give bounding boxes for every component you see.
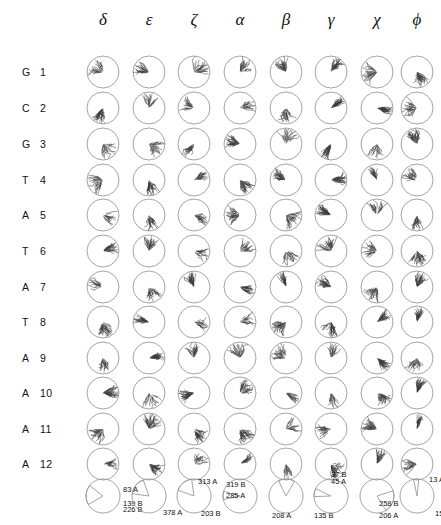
dial-plot-phi-residue-8[interactable]	[399, 304, 435, 340]
dial-plot-chi-residue-9[interactable]	[359, 340, 395, 376]
dial-plot-chi-residue-7[interactable]	[359, 269, 395, 305]
dial-plot-chi-residue-8[interactable]	[359, 304, 395, 340]
row-residue-number: 6	[40, 245, 60, 257]
pie-slice-label: 154 B	[435, 510, 441, 518]
dial-plot-beta-residue-6[interactable]	[268, 233, 304, 269]
dial-plot-gamma-residue-4[interactable]	[313, 162, 349, 198]
dial-plot-chi-residue-3[interactable]	[359, 126, 395, 162]
dial-plot-alpha-residue-9[interactable]	[222, 340, 258, 376]
dial-plot-delta-residue-11[interactable]	[85, 411, 121, 447]
dial-plot-zeta-residue-4[interactable]	[176, 162, 212, 198]
dial-plot-beta-residue-4[interactable]	[268, 162, 304, 198]
dial-plot-beta-residue-1[interactable]	[268, 54, 304, 90]
dial-plot-alpha-residue-2[interactable]	[222, 90, 258, 126]
dial-plot-beta-residue-7[interactable]	[268, 269, 304, 305]
dial-plot-delta-residue-10[interactable]	[85, 375, 121, 411]
dial-plot-alpha-residue-8[interactable]	[222, 304, 258, 340]
dial-plot-phi-residue-1[interactable]	[399, 54, 435, 90]
dial-plot-beta-residue-9[interactable]	[268, 340, 304, 376]
dial-plot-beta-residue-2[interactable]	[268, 90, 304, 126]
dial-plot-gamma-residue-1[interactable]	[313, 54, 349, 90]
dial-plot-chi-residue-11[interactable]	[359, 411, 395, 447]
dial-plot-epsilon-residue-4[interactable]	[131, 162, 167, 198]
dial-plot-epsilon-residue-8[interactable]	[131, 304, 167, 340]
dial-plot-gamma-residue-9[interactable]	[313, 340, 349, 376]
dial-plot-beta-residue-5[interactable]	[268, 197, 304, 233]
dial-plot-zeta-residue-10[interactable]	[176, 375, 212, 411]
dial-plot-epsilon-residue-11[interactable]	[131, 411, 167, 447]
row-residue-number: 5	[40, 209, 60, 221]
dial-plot-delta-residue-2[interactable]	[85, 90, 121, 126]
dial-plot-gamma-residue-5[interactable]	[313, 197, 349, 233]
summary-pie-delta[interactable]	[84, 477, 122, 515]
dial-plot-alpha-residue-10[interactable]	[222, 375, 258, 411]
dial-plot-zeta-residue-2[interactable]	[176, 90, 212, 126]
row-residue-number: 12	[40, 458, 60, 470]
dial-plot-chi-residue-5[interactable]	[359, 197, 395, 233]
dial-plot-gamma-residue-11[interactable]	[313, 411, 349, 447]
dial-plot-delta-residue-8[interactable]	[85, 304, 121, 340]
summary-pie-chi[interactable]	[358, 477, 396, 515]
dial-plot-chi-residue-4[interactable]	[359, 162, 395, 198]
dial-plot-alpha-residue-7[interactable]	[222, 269, 258, 305]
dial-plot-phi-residue-11[interactable]	[399, 411, 435, 447]
dial-plot-delta-residue-3[interactable]	[85, 126, 121, 162]
dial-plot-zeta-residue-7[interactable]	[176, 269, 212, 305]
dial-plot-zeta-residue-9[interactable]	[176, 340, 212, 376]
dial-plot-delta-residue-9[interactable]	[85, 340, 121, 376]
dial-plot-gamma-residue-6[interactable]	[313, 233, 349, 269]
dial-plot-gamma-residue-2[interactable]	[313, 90, 349, 126]
dial-plot-alpha-residue-3[interactable]	[222, 126, 258, 162]
dial-plot-gamma-residue-10[interactable]	[313, 375, 349, 411]
dial-plot-alpha-residue-6[interactable]	[222, 233, 258, 269]
dial-plot-phi-residue-3[interactable]	[399, 126, 435, 162]
dial-plot-zeta-residue-8[interactable]	[176, 304, 212, 340]
dial-plot-phi-residue-5[interactable]	[399, 197, 435, 233]
dial-plot-delta-residue-5[interactable]	[85, 197, 121, 233]
dial-plot-gamma-residue-7[interactable]	[313, 269, 349, 305]
dial-plot-epsilon-residue-1[interactable]	[131, 54, 167, 90]
row-base-letter: A	[22, 458, 36, 470]
dial-plot-phi-residue-9[interactable]	[399, 340, 435, 376]
dial-plot-epsilon-residue-10[interactable]	[131, 375, 167, 411]
dial-plot-phi-residue-6[interactable]	[399, 233, 435, 269]
dial-plot-phi-residue-10[interactable]	[399, 375, 435, 411]
dial-plot-beta-residue-8[interactable]	[268, 304, 304, 340]
dial-plot-alpha-residue-11[interactable]	[222, 411, 258, 447]
dial-plot-alpha-residue-1[interactable]	[222, 54, 258, 90]
dial-plot-phi-residue-4[interactable]	[399, 162, 435, 198]
row-base-letter: T	[22, 174, 36, 186]
dial-plot-zeta-residue-1[interactable]	[176, 54, 212, 90]
dial-plot-gamma-residue-3[interactable]	[313, 126, 349, 162]
dial-plot-chi-residue-6[interactable]	[359, 233, 395, 269]
dial-plot-delta-residue-7[interactable]	[85, 269, 121, 305]
dial-plot-beta-residue-10[interactable]	[268, 375, 304, 411]
pie-slice-label: 258 B	[379, 500, 399, 508]
dial-plot-epsilon-residue-6[interactable]	[131, 233, 167, 269]
dial-plot-delta-residue-6[interactable]	[85, 233, 121, 269]
dial-plot-phi-residue-2[interactable]	[399, 90, 435, 126]
dial-plot-epsilon-residue-3[interactable]	[131, 126, 167, 162]
dial-plot-zeta-residue-11[interactable]	[176, 411, 212, 447]
dial-plot-beta-residue-3[interactable]	[268, 126, 304, 162]
dial-plot-epsilon-residue-2[interactable]	[131, 90, 167, 126]
dial-plot-beta-residue-11[interactable]	[268, 411, 304, 447]
dial-plot-gamma-residue-8[interactable]	[313, 304, 349, 340]
dial-plot-epsilon-residue-5[interactable]	[131, 197, 167, 233]
dial-plot-epsilon-residue-7[interactable]	[131, 269, 167, 305]
dial-plot-epsilon-residue-9[interactable]	[131, 340, 167, 376]
dial-plot-zeta-residue-6[interactable]	[176, 233, 212, 269]
dial-plot-zeta-residue-3[interactable]	[176, 126, 212, 162]
dial-plot-delta-residue-1[interactable]	[85, 54, 121, 90]
dial-plot-chi-residue-1[interactable]	[359, 54, 395, 90]
dial-plot-chi-residue-10[interactable]	[359, 375, 395, 411]
summary-pie-beta[interactable]	[267, 477, 305, 515]
dial-plot-zeta-residue-5[interactable]	[176, 197, 212, 233]
dial-plot-delta-residue-4[interactable]	[85, 162, 121, 198]
dial-plot-chi-residue-2[interactable]	[359, 90, 395, 126]
dial-plot-phi-residue-7[interactable]	[399, 269, 435, 305]
dial-plot-alpha-residue-4[interactable]	[222, 162, 258, 198]
dial-plot-alpha-residue-5[interactable]	[222, 197, 258, 233]
pie-slice-label: 206 A	[379, 512, 398, 520]
row-residue-number: 8	[40, 316, 60, 328]
